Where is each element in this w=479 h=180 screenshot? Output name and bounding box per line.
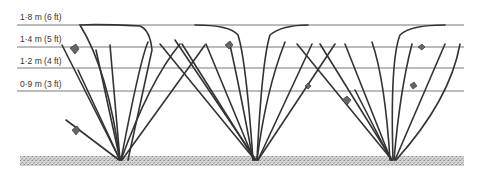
right-plant [297, 25, 460, 160]
wire-label-1-4m: 1·4 m (5 ft) [20, 34, 62, 44]
wire-label-1-2m: 1·2 m (4 ft) [20, 56, 62, 66]
leaf-icon [72, 126, 80, 135]
raspberry-training-diagram [0, 0, 479, 180]
wire-label-0-9m: 0·9 m (3 ft) [20, 79, 62, 89]
leaf-icon [410, 82, 417, 89]
leaf-icon [342, 96, 351, 105]
middle-plant [160, 25, 335, 160]
leaf-icon [70, 44, 79, 54]
leaf-icon [225, 41, 233, 49]
leaf-icon [418, 44, 425, 50]
wire-label-1-8m: 1·8 m (6 ft) [20, 12, 62, 22]
